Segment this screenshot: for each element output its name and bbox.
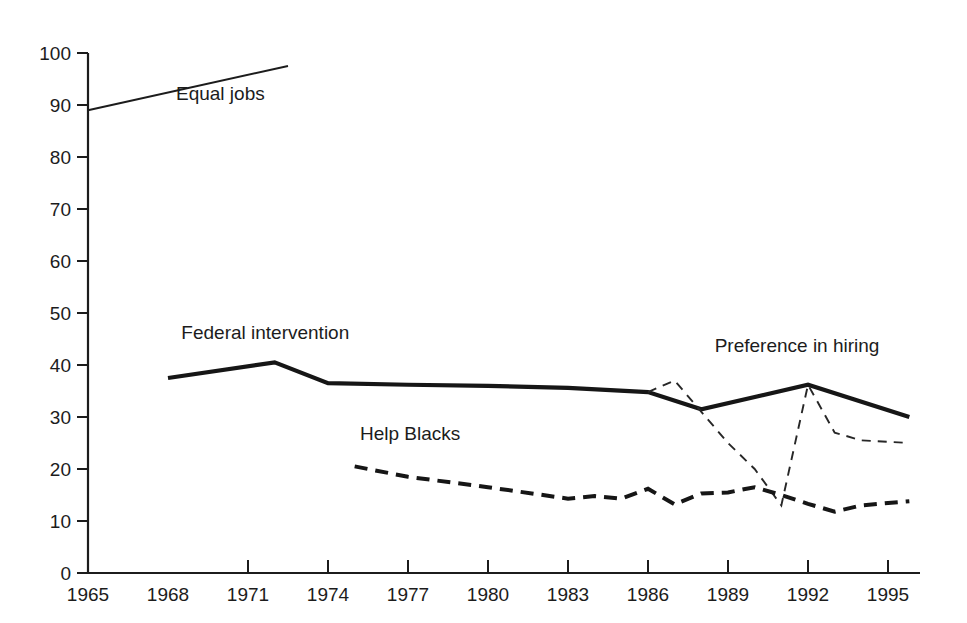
- x-axis-tick-label: 1983: [547, 584, 589, 605]
- x-axis-tick-label: 1977: [387, 584, 429, 605]
- series-label-federal-intervention: Federal intervention: [181, 322, 349, 343]
- series-label-preference-in-hiring: Preference in hiring: [715, 335, 880, 356]
- y-axis-tick-label: 50: [50, 303, 71, 324]
- y-axis-tick-label: 0: [60, 563, 71, 584]
- x-axis-tick-label: 1974: [307, 584, 350, 605]
- x-axis-tick-label: 1986: [627, 584, 669, 605]
- x-axis-tick-label: 1968: [147, 584, 189, 605]
- y-axis-tick-label: 40: [50, 355, 71, 376]
- series-label-help-blacks: Help Blacks: [360, 423, 460, 444]
- y-axis-tick-label: 80: [50, 147, 71, 168]
- y-axis-tick-label: 100: [39, 43, 71, 64]
- x-axis-tick-label: 1965: [67, 584, 109, 605]
- y-axis-tick-label: 70: [50, 199, 71, 220]
- series-label-equal-jobs: Equal jobs: [176, 83, 265, 104]
- y-axis-tick-label: 30: [50, 407, 71, 428]
- y-axis-tick-label: 60: [50, 251, 71, 272]
- y-axis-tick-label: 10: [50, 511, 71, 532]
- x-axis-tick-label: 1992: [787, 584, 829, 605]
- x-axis-tick-label: 1995: [867, 584, 909, 605]
- chart-background: [0, 0, 967, 623]
- line-chart: 0102030405060708090100 19651968197119741…: [0, 0, 967, 623]
- y-axis-tick-label: 20: [50, 459, 71, 480]
- x-axis-tick-label: 1980: [467, 584, 509, 605]
- x-axis-tick-label: 1971: [227, 584, 269, 605]
- x-axis-tick-label: 1989: [707, 584, 749, 605]
- y-axis-tick-label: 90: [50, 95, 71, 116]
- chart-container: 0102030405060708090100 19651968197119741…: [0, 0, 967, 623]
